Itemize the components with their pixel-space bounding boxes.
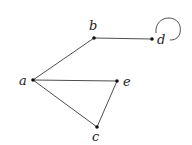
node-label-b: b bbox=[89, 18, 97, 33]
edge-e-c bbox=[97, 81, 117, 127]
node-label-d: d bbox=[157, 32, 165, 47]
edge-a-e bbox=[33, 80, 117, 81]
node-b bbox=[92, 36, 96, 40]
edge-b-d bbox=[94, 38, 152, 39]
edge-a-b bbox=[33, 38, 94, 80]
node-label-a: a bbox=[19, 73, 27, 88]
node-a bbox=[31, 78, 35, 82]
graph-diagram: abdec bbox=[0, 0, 192, 145]
node-e bbox=[115, 79, 119, 83]
nodes bbox=[31, 36, 154, 129]
node-d bbox=[150, 37, 154, 41]
node-label-c: c bbox=[92, 129, 100, 144]
node-label-e: e bbox=[123, 74, 131, 89]
edge-a-c bbox=[33, 80, 97, 127]
